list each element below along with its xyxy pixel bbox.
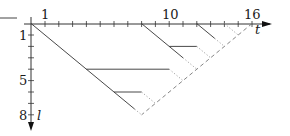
dotted-segment xyxy=(215,38,225,46)
x-tick-label-1: 1 xyxy=(41,7,49,22)
x-axis xyxy=(24,21,272,27)
x-axis-label: t xyxy=(255,22,261,37)
y-tick-label-1: 1 xyxy=(19,28,27,43)
dotted-segment xyxy=(135,109,142,115)
dotted-segment xyxy=(183,58,197,69)
x-tick-label-16: 16 xyxy=(244,7,261,22)
diagram: 1 10 16 t 1 5 8 l xyxy=(0,0,290,136)
dotted-segment xyxy=(197,46,211,57)
y-axis-label: l xyxy=(37,108,41,123)
y-axis xyxy=(28,17,34,131)
dotted-segment xyxy=(169,69,183,80)
solid-segment xyxy=(31,24,135,110)
y-axis-arrow-icon xyxy=(28,122,34,131)
dotted-segment xyxy=(224,24,238,35)
diagram-segments xyxy=(31,24,252,115)
solid-segment xyxy=(142,24,183,58)
x-tick-label-10: 10 xyxy=(162,7,179,22)
solid-segment xyxy=(197,24,215,39)
dotted-segment xyxy=(142,92,156,103)
y-tick-label-5: 5 xyxy=(19,73,27,88)
x-axis-arrow-icon xyxy=(262,21,272,27)
y-tick-label-8: 8 xyxy=(19,108,27,123)
